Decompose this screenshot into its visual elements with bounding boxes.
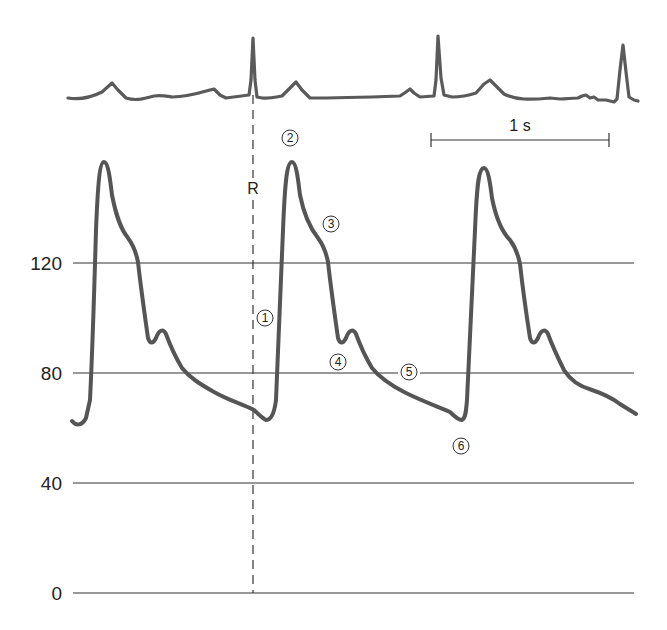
svg-text:6: 6 xyxy=(458,439,465,453)
marker-4: 4 xyxy=(330,354,346,370)
gridlines xyxy=(73,263,634,593)
tick-label-40: 40 xyxy=(41,473,62,494)
marker-3: 3 xyxy=(323,216,339,232)
time-scale-bar: 1 s xyxy=(431,117,609,147)
ecg-trace xyxy=(68,36,638,102)
svg-text:4: 4 xyxy=(335,355,342,369)
tick-label-120: 120 xyxy=(30,253,62,274)
y-axis-ticks: 120 80 40 0 xyxy=(30,253,62,604)
svg-text:3: 3 xyxy=(328,217,335,231)
svg-text:5: 5 xyxy=(406,365,413,379)
marker-1: 1 xyxy=(257,310,273,326)
scale-bar-label: 1 s xyxy=(509,117,530,134)
marker-6: 6 xyxy=(453,438,469,454)
svg-text:2: 2 xyxy=(287,131,294,145)
r-wave-label: R xyxy=(247,180,259,197)
tick-label-0: 0 xyxy=(51,583,62,604)
svg-text:1: 1 xyxy=(262,311,269,325)
arterial-pressure-trace xyxy=(72,162,636,424)
marker-2: 2 xyxy=(282,130,298,146)
arterial-pressure-chart: 120 80 40 0 R 1 s 1 2 3 4 xyxy=(0,0,667,630)
marker-5: 5 xyxy=(398,362,420,384)
tick-label-80: 80 xyxy=(41,363,62,384)
